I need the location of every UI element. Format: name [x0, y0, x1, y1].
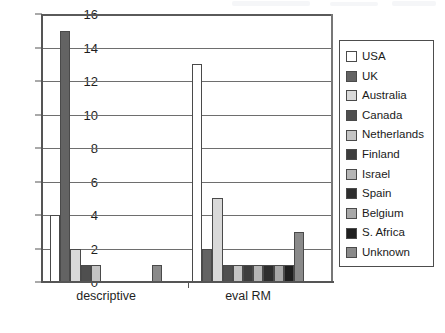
- x-axis-category-label: descriptive: [46, 289, 166, 303]
- legend-swatch-icon: [346, 149, 357, 160]
- legend-swatch-icon: [346, 188, 357, 199]
- bar: [152, 265, 162, 282]
- legend-swatch-icon: [346, 130, 357, 141]
- legend-item-label: S. Africa: [362, 227, 405, 239]
- legend-item-label: Canada: [362, 110, 402, 122]
- legend-item[interactable]: Israel: [346, 165, 433, 185]
- x-axis-tick-mark: [188, 282, 189, 288]
- legend-item-label: UK: [362, 71, 378, 83]
- legend-item[interactable]: Belgium: [346, 204, 433, 224]
- bar: [253, 265, 263, 282]
- bar: [192, 64, 202, 282]
- legend-swatch-icon: [346, 169, 357, 180]
- x-axis-category-label: eval RM: [188, 289, 308, 303]
- bar: [60, 31, 70, 282]
- legend-item-label: Netherlands: [362, 129, 424, 141]
- legend-swatch-icon: [346, 228, 357, 239]
- legend-item-label: Finland: [362, 149, 400, 161]
- legend-item[interactable]: USA: [346, 47, 433, 67]
- bars-layer: [42, 14, 333, 282]
- legend-item[interactable]: Netherlands: [346, 125, 433, 145]
- bar: [212, 198, 222, 282]
- legend-item-label: Belgium: [362, 208, 404, 220]
- legend-item[interactable]: Canada: [346, 106, 433, 126]
- legend-swatch-icon: [346, 51, 357, 62]
- legend: USAUKAustraliaCanadaNetherlandsFinlandIs…: [339, 40, 434, 267]
- legend-item[interactable]: Australia: [346, 86, 433, 106]
- bar: [81, 265, 91, 282]
- legend-item-label: Unknown: [362, 247, 410, 259]
- bar: [274, 265, 284, 282]
- scan-artifact: [392, 1, 436, 6]
- legend-swatch-icon: [346, 110, 357, 121]
- scan-artifact: [330, 2, 378, 6]
- bar: [263, 265, 273, 282]
- bar: [294, 232, 304, 282]
- legend-item[interactable]: Unknown: [346, 243, 433, 263]
- bar: [91, 265, 101, 282]
- legend-item[interactable]: Spain: [346, 184, 433, 204]
- scan-artifact: [232, 1, 310, 6]
- legend-item[interactable]: UK: [346, 67, 433, 87]
- legend-item-label: Israel: [362, 169, 390, 181]
- legend-swatch-icon: [346, 247, 357, 258]
- bar: [50, 215, 60, 282]
- bar: [70, 249, 80, 283]
- legend-item[interactable]: Finland: [346, 145, 433, 165]
- bar: [202, 249, 212, 283]
- legend-swatch-icon: [346, 71, 357, 82]
- bar: [233, 265, 243, 282]
- bar-chart: 0246810121416 descriptiveeval RM USAUKAu…: [0, 0, 445, 333]
- legend-item-label: Spain: [362, 188, 391, 200]
- y-axis-line: [41, 14, 43, 282]
- legend-swatch-icon: [346, 208, 357, 219]
- legend-swatch-icon: [346, 90, 357, 101]
- legend-item[interactable]: S. Africa: [346, 223, 433, 243]
- legend-item-label: Australia: [362, 90, 407, 102]
- bar: [284, 265, 294, 282]
- bar: [223, 265, 233, 282]
- bar: [243, 265, 253, 282]
- legend-item-label: USA: [362, 51, 386, 63]
- plot-area: [42, 14, 333, 282]
